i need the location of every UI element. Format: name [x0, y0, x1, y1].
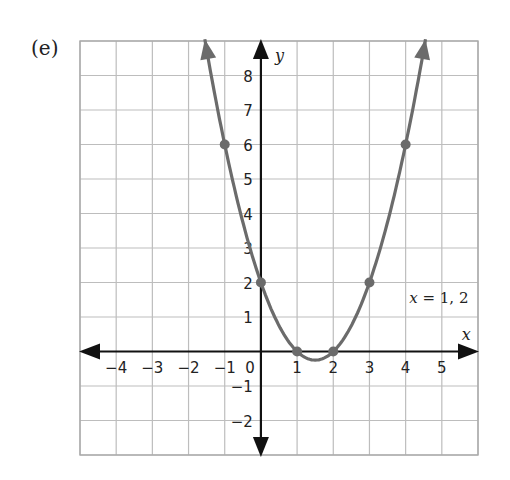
x-tick-label: 5: [437, 359, 447, 377]
x-tick-label: −1: [214, 359, 236, 377]
x-axis-arrow-right: [458, 344, 479, 360]
y-tick-label: 1: [243, 309, 253, 327]
data-point: [328, 347, 338, 357]
data-point: [292, 347, 302, 357]
x-tick-label: −4: [105, 359, 127, 377]
y-axis-arrow-down: [253, 437, 269, 457]
x-tick-label: 2: [328, 359, 338, 377]
curve-arrow-right: [414, 39, 430, 60]
x-tick-label: 4: [401, 359, 411, 377]
y-axis-arrow-up: [253, 39, 269, 59]
curve-arrow-left: [200, 39, 216, 60]
y-tick-label: 2: [243, 275, 253, 293]
parabola-curve: [205, 39, 426, 360]
y-tick-label: 8: [243, 68, 253, 86]
y-tick-label: −1: [231, 378, 253, 396]
y-tick-label: 5: [243, 171, 253, 189]
data-point: [401, 140, 411, 150]
data-point: [364, 278, 374, 288]
y-tick-label: 4: [243, 206, 253, 224]
data-point: [220, 140, 230, 150]
data-point: [256, 278, 266, 288]
y-tick-label: −2: [231, 413, 253, 431]
y-tick-label: 7: [243, 102, 253, 120]
x-tick-label: 3: [365, 359, 375, 377]
x-tick-label: −2: [177, 359, 199, 377]
y-axis-label: y: [274, 46, 285, 65]
roots-annotation: x = 1, 2: [409, 289, 468, 307]
x-tick-label: 0: [245, 359, 255, 377]
x-axis-arrow-left: [79, 344, 100, 360]
x-axis-label: x: [462, 325, 471, 344]
x-tick-label: −3: [141, 359, 163, 377]
y-tick-label: 6: [243, 137, 253, 155]
parabola-chart: yx−4−3−2−1012345−2−112345678x = 1, 2: [0, 0, 510, 480]
x-tick-label: 1: [292, 359, 302, 377]
